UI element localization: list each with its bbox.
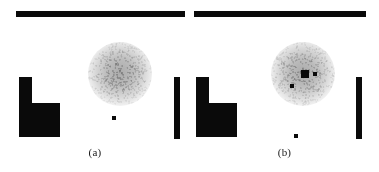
top-horizontal-bar <box>16 11 185 17</box>
noise-blob <box>88 42 152 106</box>
panel-a: (a) <box>0 0 190 172</box>
panel-b: (b) <box>190 0 379 172</box>
marker-dot-right <box>313 72 317 76</box>
figure-container: (a) (b) <box>0 0 379 172</box>
l-block-foot <box>196 103 237 137</box>
marker-dot-lowerleft <box>290 84 294 88</box>
noise-blob-speckle <box>88 42 152 106</box>
marker-square-center <box>301 70 309 78</box>
top-horizontal-bar <box>194 11 366 17</box>
right-vertical-bar <box>174 77 180 139</box>
marker-dot-below <box>294 134 298 138</box>
right-vertical-bar <box>356 77 362 139</box>
l-block-foot <box>19 103 60 137</box>
panel-a-caption: (a) <box>0 146 190 158</box>
marker-dot-lower <box>112 116 116 120</box>
panel-b-caption: (b) <box>190 146 379 158</box>
